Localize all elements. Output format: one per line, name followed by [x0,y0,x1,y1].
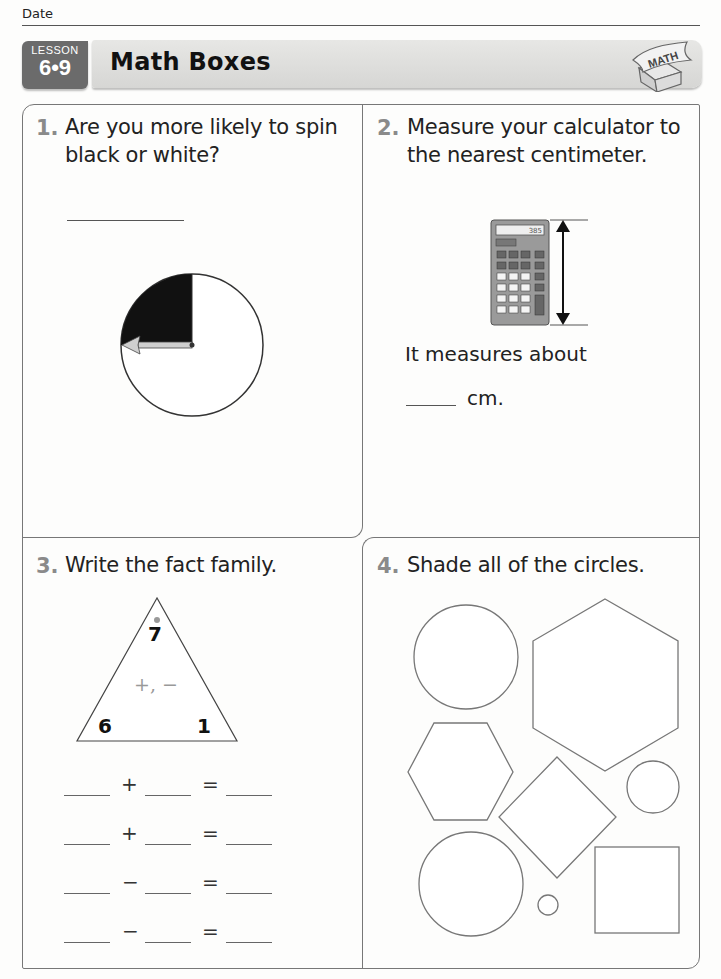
equation-operator: − [122,870,139,894]
square-shape[interactable] [595,847,679,933]
equation-blank[interactable] [226,893,272,894]
date-label: Date [22,6,53,21]
problem-2-text-line1: Measure your calculator to [407,113,680,141]
problem-1-number: 1. [36,116,59,140]
equation-blank[interactable] [226,942,272,943]
circle-large-shape[interactable] [414,605,518,709]
equation-blank[interactable] [64,893,110,894]
triangle-right-number: 1 [197,714,211,738]
measure-answer-unit: cm. [467,386,504,410]
equation-row: + = [64,768,274,798]
measure-answer-blank[interactable] [406,405,456,406]
problem-4-number: 4. [377,554,400,578]
lesson-badge: LESSON 6•9 [22,41,88,89]
circle-tiny-shape[interactable] [538,895,558,915]
problem-1-text-line1: Are you more likely to spin [65,113,337,141]
problem-3-number: 3. [36,554,59,578]
equation-operator: + [121,772,138,796]
equation-row: + = [64,817,274,847]
equation-row: − = [64,915,274,945]
circle-medium-shape[interactable] [627,761,679,813]
problem-1-text-line2: black or white? [65,141,220,169]
equation-blank[interactable] [145,942,191,943]
hexagon-large-shape[interactable] [533,599,678,771]
calculator-icon: 385 [488,217,588,329]
problem-2-text-line2: the nearest centimeter. [407,141,647,169]
equation-equals: = [202,821,219,845]
equation-blank[interactable] [64,795,110,796]
page-title: Math Boxes [110,48,271,76]
triangle-operations: +, − [134,673,178,695]
equation-blank[interactable] [145,893,191,894]
lesson-number: 6•9 [22,56,88,80]
equation-blank[interactable] [226,795,272,796]
equation-operator: − [122,919,139,943]
problem-2-number: 2. [377,116,400,140]
hexagon-small-shape[interactable] [408,723,513,820]
equation-blank[interactable] [64,844,110,845]
problem-4-text: Shade all of the circles. [407,551,645,579]
equation-equals: = [202,919,219,943]
math-box-logo-icon: MATH [625,38,695,92]
equation-equals: = [202,772,219,796]
equation-blank[interactable] [64,942,110,943]
equation-blank[interactable] [145,795,191,796]
date-row: Date [22,3,700,26]
equation-blank[interactable] [145,844,191,845]
triangle-top-number: 7 [148,622,162,646]
problem-3-text: Write the fact family. [65,551,277,579]
equation-equals: = [202,870,219,894]
spinner-icon [118,270,266,420]
equation-blank[interactable] [226,844,272,845]
measure-answer-prefix: It measures about [405,342,587,366]
equation-operator: + [121,821,138,845]
shapes-group [395,590,695,955]
equation-row: − = [64,866,274,896]
circle-large-bottom-shape[interactable] [419,832,523,936]
problem-1-answer-blank[interactable] [67,220,184,221]
calculator-display: 385 [529,227,542,235]
triangle-left-number: 6 [98,714,112,738]
